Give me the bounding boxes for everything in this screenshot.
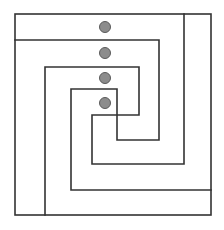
dot-marker-4 (100, 98, 111, 109)
maze-canvas (0, 0, 224, 230)
dot-marker-2 (100, 48, 111, 59)
dot-marker-3 (100, 73, 111, 84)
maze-diagram (0, 0, 224, 230)
spiral-path-b (45, 14, 184, 215)
dot-marker-1 (100, 22, 111, 33)
